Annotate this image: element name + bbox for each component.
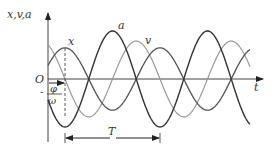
phase-sign: - — [40, 86, 43, 97]
curve-label-a: a — [118, 19, 125, 32]
y-axis-label: x,v,a — [7, 8, 32, 21]
shm-graph: x,v,a t O x a v - φ ω T — [0, 0, 277, 154]
t-axis-label: t — [254, 81, 259, 94]
curve-label-x: x — [68, 35, 75, 48]
phase-numerator: φ — [50, 83, 57, 94]
curve-label-v: v — [145, 34, 152, 47]
phase-denominator: ω — [48, 95, 56, 106]
origin-label: O — [35, 73, 44, 86]
period-label: T — [108, 125, 117, 138]
